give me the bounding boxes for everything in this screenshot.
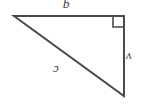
triangle-outline (14, 16, 124, 96)
right-triangle-figure: q v c (0, 0, 145, 106)
side-label-hypotenuse: c (53, 64, 59, 77)
triangle-drawing (0, 0, 145, 106)
side-label-right: v (126, 51, 132, 64)
right-angle-marker-icon (113, 16, 124, 27)
side-label-top: q (63, 0, 70, 13)
